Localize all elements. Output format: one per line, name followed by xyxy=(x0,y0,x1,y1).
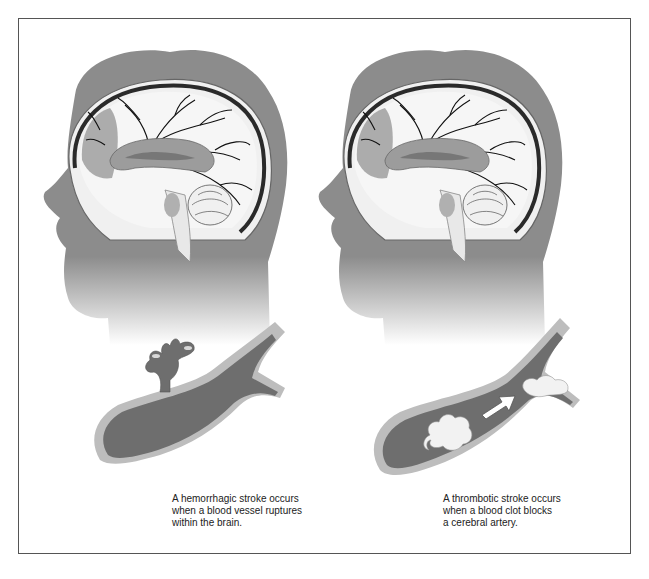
hemorrhagic-illustration xyxy=(0,0,330,540)
caption-hemorrhagic: A hemorrhagic stroke occurs when a blood… xyxy=(172,493,302,529)
blood-clot-lodged xyxy=(523,376,568,397)
caption-thrombotic: A thrombotic stroke occurs when a blood … xyxy=(443,493,561,529)
cerebellum xyxy=(463,185,507,225)
panel-hemorrhagic: A hemorrhagic stroke occurs when a blood… xyxy=(0,0,330,540)
panel-thrombotic: A thrombotic stroke occurs when a blood … xyxy=(305,0,645,540)
cerebellum xyxy=(188,185,232,225)
thrombotic-illustration xyxy=(305,0,645,540)
